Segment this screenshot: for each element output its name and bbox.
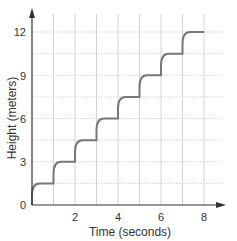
staircase-height-chart: 0 3 6 9 12 2 4 6 8 Time (seconds) Height…: [0, 0, 237, 241]
y-axis-label: Height (meters): [5, 77, 19, 160]
axes: [29, 8, 226, 208]
y-tick-3: 3: [20, 156, 26, 168]
y-tick-6: 6: [20, 113, 26, 125]
x-tick-labels: 2 4 6 8: [72, 211, 207, 223]
y-axis-arrow-icon: [29, 8, 35, 18]
grid-lines: [32, 14, 222, 205]
x-tick-6: 6: [158, 211, 164, 223]
x-axis-label: Time (seconds): [89, 225, 171, 239]
x-tick-4: 4: [115, 211, 121, 223]
y-tick-9: 9: [20, 70, 26, 82]
x-tick-8: 8: [201, 211, 207, 223]
x-tick-2: 2: [72, 211, 78, 223]
x-axis-arrow-icon: [216, 202, 226, 208]
y-tick-0: 0: [20, 199, 26, 211]
y-tick-12: 12: [14, 26, 26, 38]
